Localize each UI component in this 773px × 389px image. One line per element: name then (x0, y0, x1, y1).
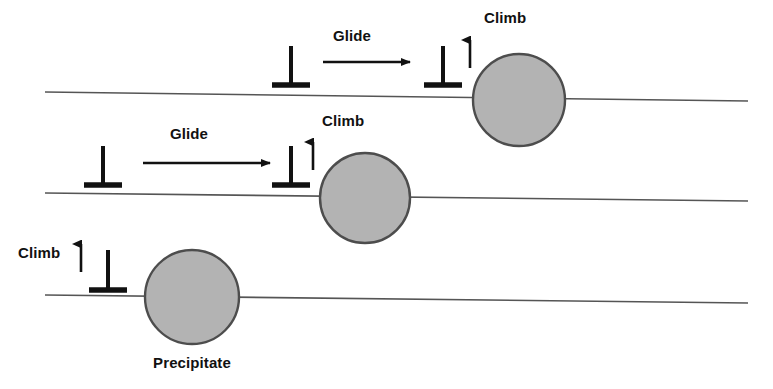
dislocation-symbol-top-right (424, 46, 462, 85)
slip-plane-line-top (45, 92, 748, 101)
precipitate-circle-top (473, 54, 565, 146)
climb-label-bottom: Climb (18, 245, 60, 260)
precipitate-circle-bottom (145, 250, 239, 344)
dislocation-symbol-middle-right (272, 146, 310, 185)
dislocation-symbol-bottom (89, 250, 127, 290)
diagram-row-top (45, 40, 748, 146)
diagram-row-bottom (45, 244, 748, 344)
dislocation-symbol-middle-left (84, 146, 122, 185)
precipitate-circle-middle (320, 153, 410, 243)
diagram-row-middle (45, 142, 748, 243)
climb-label-middle: Climb (322, 113, 364, 128)
dislocation-symbol-top-left (272, 46, 310, 85)
glide-label-top: Glide (333, 28, 371, 43)
precipitate-label: Precipitate (153, 355, 231, 370)
diagram-svg (0, 0, 773, 389)
figure-canvas: Glide Climb Glide Climb Climb Precipitat… (0, 0, 773, 389)
climb-label-top: Climb (484, 10, 526, 25)
glide-label-middle: Glide (170, 126, 208, 141)
